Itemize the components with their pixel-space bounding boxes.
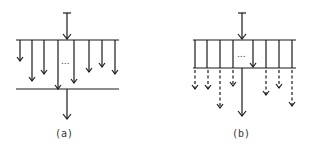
ellipsis-a: ... [61, 56, 70, 66]
input-arrow-b [238, 13, 246, 39]
dashed-arrows-b [192, 70, 295, 108]
output-arrow-b [238, 68, 246, 116]
input-arrow-a [63, 13, 71, 39]
panel-label-b: (b) [232, 128, 250, 139]
ellipsis-b: ... [237, 49, 246, 59]
panel-label-a: (a) [55, 128, 73, 139]
output-arrow-a [63, 89, 71, 119]
panel-a: ... (a) [16, 13, 119, 139]
diagram-canvas: ... (a) ... [0, 0, 309, 148]
panel-b: ... (b) [192, 13, 296, 139]
